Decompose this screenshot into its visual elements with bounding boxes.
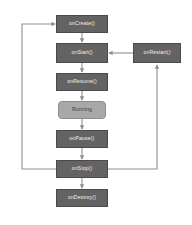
node-onstart[interactable]: onStart(): [56, 43, 108, 63]
edge-onstop-to-onrestart: [108, 65, 157, 169]
node-onrestart-label: onRestart(): [143, 51, 170, 56]
node-onpause-label: onPause(): [70, 137, 95, 142]
activity-lifecycle-diagram: onCreate() onStart() onResume() Running …: [0, 0, 192, 225]
node-onresume[interactable]: onResume(): [56, 73, 108, 91]
node-onstop-label: onStop(): [72, 167, 93, 172]
node-onstop[interactable]: onStop(): [56, 160, 108, 178]
node-running-label: Running: [72, 108, 92, 113]
node-ondestroy[interactable]: onDestroy(): [56, 189, 108, 207]
node-running[interactable]: Running: [58, 101, 106, 119]
node-onrestart[interactable]: onRestart(): [133, 43, 181, 63]
node-oncreate-label: onCreate(): [69, 22, 95, 27]
node-ondestroy-label: onDestroy(): [68, 196, 96, 201]
node-onpause[interactable]: onPause(): [56, 130, 108, 148]
node-onresume-label: onResume(): [67, 80, 97, 85]
node-oncreate[interactable]: onCreate(): [56, 15, 108, 33]
edge-onstop-to-oncreate: [22, 24, 56, 169]
node-onstart-label: onStart(): [71, 51, 92, 56]
